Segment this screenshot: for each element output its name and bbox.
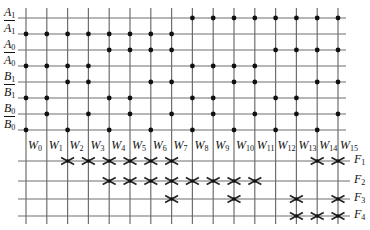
word-label-W6: W6 <box>153 139 167 153</box>
input-label-not-B0: B0 <box>4 118 15 132</box>
cross-center-dot <box>149 179 153 183</box>
connection-dot <box>190 96 195 101</box>
connection-dot <box>24 32 29 37</box>
connection-dot <box>232 64 237 69</box>
output-label-F1: F1 <box>354 153 365 167</box>
word-label-W15: W15 <box>340 139 358 153</box>
input-label-not-A0: A0 <box>4 54 15 68</box>
connection-dot <box>315 80 320 85</box>
word-label-W0: W0 <box>28 139 42 153</box>
connection-dot <box>107 48 112 53</box>
connection-dot <box>232 80 237 85</box>
word-label-W11: W11 <box>257 139 275 153</box>
connection-dot <box>65 128 70 133</box>
word-label-W14: W14 <box>319 139 337 153</box>
connection-dot <box>148 80 153 85</box>
connection-dot <box>190 16 195 21</box>
connection-dot <box>294 16 299 21</box>
input-label-A1: A1 <box>4 6 15 20</box>
connection-dot <box>336 48 341 53</box>
cross-center-dot <box>170 159 174 163</box>
connection-dot <box>273 96 278 101</box>
connection-dot <box>86 64 91 69</box>
connection-dot <box>211 112 216 117</box>
word-label-W2: W2 <box>70 139 84 153</box>
word-label-W8: W8 <box>194 139 208 153</box>
connection-dot <box>190 128 195 133</box>
connection-dot <box>273 16 278 21</box>
cross-center-dot <box>170 179 174 183</box>
cross-center-dot <box>336 197 340 201</box>
connection-dot <box>294 48 299 53</box>
connection-dot <box>252 16 257 21</box>
cross-center-dot <box>295 197 299 201</box>
cross-center-dot <box>128 159 132 163</box>
connection-dot <box>107 128 112 133</box>
connection-dot <box>190 64 195 69</box>
connection-dot <box>44 32 49 37</box>
cross-center-dot <box>170 197 174 201</box>
word-label-W10: W10 <box>236 139 254 153</box>
connection-dot <box>148 48 153 53</box>
connection-dot <box>128 112 133 117</box>
cross-center-dot <box>336 159 340 163</box>
connection-dot <box>211 96 216 101</box>
connection-dot <box>107 32 112 37</box>
connection-dot <box>211 16 216 21</box>
connection-dot <box>24 128 29 133</box>
cross-center-dot <box>232 197 236 201</box>
connection-dot <box>273 128 278 133</box>
cross-center-dot <box>211 179 215 183</box>
connection-dot <box>148 128 153 133</box>
connection-dot <box>44 64 49 69</box>
output-label-F2: F2 <box>354 173 365 187</box>
connection-dot <box>211 64 216 69</box>
connection-dot <box>24 64 29 69</box>
word-label-W5: W5 <box>132 139 146 153</box>
connection-dot <box>232 128 237 133</box>
cross-center-dot <box>107 159 111 163</box>
cross-center-dot <box>128 179 132 183</box>
input-label-B1: B1 <box>4 70 15 84</box>
connection-dot <box>294 96 299 101</box>
cross-center-dot <box>253 179 257 183</box>
connection-dot <box>128 96 133 101</box>
connection-dot <box>252 112 257 117</box>
word-label-W12: W12 <box>278 139 296 153</box>
connection-dot <box>24 96 29 101</box>
connection-dot <box>148 32 153 37</box>
pla-grid <box>0 0 370 230</box>
connection-dot <box>44 112 49 117</box>
cross-center-dot <box>336 214 340 218</box>
connection-dot <box>336 112 341 117</box>
connection-dot <box>273 48 278 53</box>
connection-dot <box>294 112 299 117</box>
word-label-W1: W1 <box>49 139 63 153</box>
connection-dot <box>252 80 257 85</box>
connection-dot <box>315 48 320 53</box>
word-label-W3: W3 <box>90 139 104 153</box>
input-label-A0: A0 <box>4 38 15 52</box>
connection-dot <box>336 16 341 21</box>
connection-dot <box>169 48 174 53</box>
word-label-W13: W13 <box>298 139 316 153</box>
word-label-W7: W7 <box>174 139 188 153</box>
connection-dot <box>86 112 91 117</box>
connection-dot <box>44 96 49 101</box>
connection-dot <box>252 64 257 69</box>
input-label-not-B1: B1 <box>4 86 15 100</box>
output-label-F4: F4 <box>354 208 365 222</box>
input-label-B0: B0 <box>4 102 15 116</box>
cross-center-dot <box>315 159 319 163</box>
output-label-F3: F3 <box>354 191 365 205</box>
pla-diagram: A1A1A0A0B1B1B0B0W0W1W2W3W4W5W6W7W8W9W10W… <box>0 0 370 230</box>
cross-center-dot <box>191 179 195 183</box>
connection-dot <box>336 80 341 85</box>
cross-center-dot <box>66 159 70 163</box>
connection-dot <box>232 16 237 21</box>
cross-center-dot <box>107 179 111 183</box>
connection-dot <box>128 48 133 53</box>
connection-dot <box>169 112 174 117</box>
cross-center-dot <box>87 159 91 163</box>
cross-center-dot <box>232 179 236 183</box>
